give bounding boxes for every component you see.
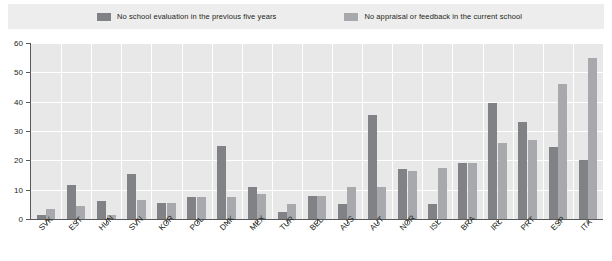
x-axis-tick	[257, 220, 258, 224]
x-axis-tick-labels: SVKESTHUNSVNKORPOLDNKMEXTURBELAUSAUTNORI…	[0, 0, 612, 261]
y-axis-tick	[26, 43, 31, 44]
x-axis-tick	[588, 220, 589, 224]
x-axis-tick	[498, 220, 499, 224]
x-axis-tick	[407, 220, 408, 224]
x-axis-tick	[377, 220, 378, 224]
x-axis-tick	[317, 220, 318, 224]
x-axis-tick	[468, 220, 469, 224]
x-axis-tick	[46, 220, 47, 224]
x-axis-tick	[287, 220, 288, 224]
x-axis-tick	[528, 220, 529, 224]
y-axis-tick	[26, 160, 31, 161]
x-axis-label-ita: ITA	[579, 218, 594, 233]
x-axis-tick	[106, 220, 107, 224]
y-axis-tick	[26, 72, 31, 73]
x-axis-tick	[136, 220, 137, 224]
x-axis-tick	[437, 220, 438, 224]
x-axis-label-isl: ISL	[428, 218, 443, 233]
x-axis-tick	[227, 220, 228, 224]
x-axis-tick	[76, 220, 77, 224]
y-axis-tick	[26, 219, 31, 220]
x-axis-tick	[197, 220, 198, 224]
y-axis-tick	[26, 190, 31, 191]
y-axis-tick	[26, 102, 31, 103]
x-axis-tick	[166, 220, 167, 224]
y-axis-tick	[26, 131, 31, 132]
x-axis-label-irl: IRL	[489, 217, 504, 232]
x-axis-tick	[347, 220, 348, 224]
x-axis-tick	[558, 220, 559, 224]
